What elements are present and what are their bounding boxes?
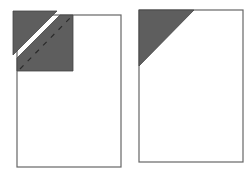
fold-diagram [0, 0, 250, 177]
right-panel [139, 10, 243, 162]
left-panel [13, 11, 121, 167]
